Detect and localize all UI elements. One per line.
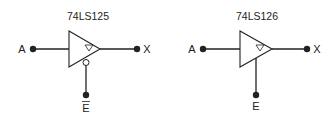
enable-terminal-dot xyxy=(253,92,259,98)
gate-74ls125: 74LS125 A X E xyxy=(18,10,151,114)
inversion-bubble-icon xyxy=(83,60,89,66)
gate-74ls126: 74LS126 A X E xyxy=(188,10,321,112)
output-label: X xyxy=(313,43,321,55)
enable-label: E xyxy=(82,102,89,114)
gate-title: 74LS126 xyxy=(236,10,278,22)
input-label: A xyxy=(18,43,26,55)
diagram-canvas: 74LS125 A X E 74LS126 A X E xyxy=(0,0,335,118)
output-terminal-dot xyxy=(304,46,310,52)
output-terminal-dot xyxy=(134,46,140,52)
enable-label: E xyxy=(252,100,259,112)
output-label: X xyxy=(143,43,151,55)
enable-terminal-dot xyxy=(83,92,89,98)
gate-title: 74LS125 xyxy=(67,10,109,22)
input-label: A xyxy=(188,43,196,55)
